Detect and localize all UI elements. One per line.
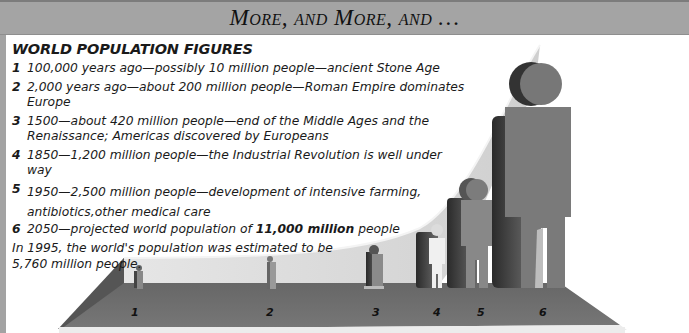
item-number: 2 [12,80,27,111]
item-text: 2,000 years ago—about 200 million people… [27,80,467,111]
item-number: 6 [12,222,27,238]
figure-label-4: 4 [433,306,441,319]
item-text-part: 2050—projected world population of [27,222,256,236]
figure-label-6: 6 [539,306,547,319]
item-text: 100,000 years ago—possibly 10 million pe… [27,61,467,77]
item-number: 3 [12,114,27,145]
figure-label-3: 3 [372,306,380,319]
population-text-panel: WORLD POPULATION FIGURES 1 100,000 years… [12,40,612,272]
item-text: 1500—about 420 million people—end of the… [27,114,447,145]
list-item: 2 2,000 years ago—about 200 million peop… [12,80,612,111]
item-text: 1950—2,500 million people—development of… [27,182,427,222]
figure-label-1: 1 [131,306,139,319]
item-text: 2050—projected world population of 11,00… [27,222,467,238]
figure-label-5: 5 [477,306,485,319]
list-item: 5 1950—2,500 million people—development … [12,182,612,222]
population-1995-note: In 1995, the world's population was esti… [12,240,342,272]
item-number: 5 [12,182,27,222]
item-number: 1 [12,61,27,77]
list-item: 1 100,000 years ago—possibly 10 million … [12,61,612,77]
item-text-part: people [354,222,400,236]
item-text: 1850—1,200 million people—the Industrial… [27,148,467,179]
list-item: 4 1850—1,200 million people—the Industri… [12,148,612,179]
item-number: 4 [12,148,27,179]
panel-heading: WORLD POPULATION FIGURES [12,40,612,58]
list-item: 6 2050—projected world population of 11,… [12,222,612,238]
figure-label-2: 2 [266,306,274,319]
projected-population-value: 11,000 million [256,222,355,236]
list-item: 3 1500—about 420 million people—end of t… [12,114,612,145]
